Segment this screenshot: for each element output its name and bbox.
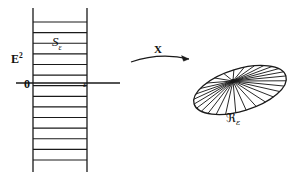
image-region-label-base: ℜ <box>226 111 236 125</box>
domain-label: E2 <box>11 52 23 65</box>
image-region-label: ℜε <box>226 112 240 127</box>
origin-label: 0 <box>24 78 30 90</box>
image-region-label-subscript: ε <box>236 118 240 127</box>
strip-region-group <box>33 8 87 172</box>
map-arrow-group <box>131 56 189 62</box>
domain-label-base: E <box>11 52 19 66</box>
strip-region-label: Sε <box>52 35 62 52</box>
map-label: X <box>154 44 162 55</box>
axis-epsilon-label: ε <box>83 80 87 89</box>
map-arrow-head <box>182 56 190 62</box>
map-arrow-curve <box>131 56 189 62</box>
diagram-svg <box>0 0 295 178</box>
domain-label-exponent: 2 <box>19 51 23 60</box>
figure-canvas: E2 0 ε Sε X ℜε <box>0 0 295 178</box>
strip-region-label-subscript: ε <box>59 43 62 52</box>
